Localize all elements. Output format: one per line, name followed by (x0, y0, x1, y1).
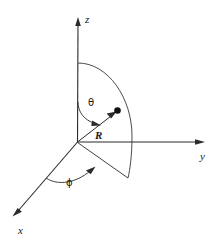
theta-arc-arrowhead (91, 121, 101, 126)
axes-group (13, 17, 206, 217)
x-axis-label: x (17, 224, 23, 236)
radius-label: R (94, 129, 102, 141)
z-axis-label: z (84, 13, 90, 25)
z-axis-arrowhead (75, 17, 81, 26)
z-axis (75, 17, 81, 142)
y-axis-label: y (199, 150, 205, 162)
wedge-lower-edge (78, 143, 129, 179)
x-axis-arrowhead (13, 208, 22, 217)
z-axis-line (78, 24, 79, 142)
diagram-canvas: z y x θ ϕ R (0, 0, 218, 240)
y-axis-arrowhead (195, 139, 205, 145)
phi-label: ϕ (66, 177, 73, 188)
labels-group: z y x θ ϕ R (17, 13, 205, 236)
spherical-coordinate-diagram: z y x θ ϕ R (0, 0, 218, 240)
point-marker (114, 107, 121, 114)
theta-label: θ (88, 97, 94, 108)
